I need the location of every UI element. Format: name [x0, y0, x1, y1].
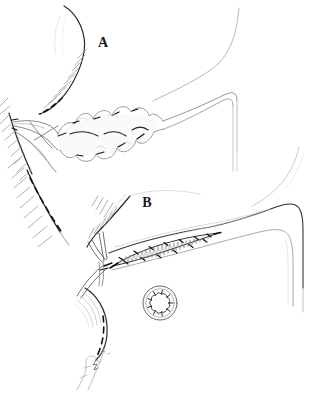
kidney-hatching-a [44, 49, 87, 108]
vessel-cross-section [143, 286, 177, 320]
tortuous-artery-segment [58, 107, 164, 162]
artist-signature [77, 348, 110, 390]
illustration-canvas: A [0, 0, 321, 402]
posterior-vessel-line-a [153, 8, 239, 101]
arterial-branches-b [77, 232, 112, 298]
kidney-outline-a [39, 6, 87, 114]
panel-b-drawing [8, 147, 304, 390]
arterial-branches-a [12, 119, 58, 172]
panel-a-drawing [0, 6, 239, 180]
aorta-hatching-a [0, 98, 32, 180]
figure-container: A [0, 0, 321, 402]
distal-artery-b [109, 147, 304, 312]
patch-graft-spindle [110, 233, 221, 269]
panel-a-label: A [98, 35, 109, 50]
distal-artery-a [163, 93, 237, 171]
cross-section-lumen [150, 293, 170, 313]
panel-b-label: B [142, 195, 151, 210]
